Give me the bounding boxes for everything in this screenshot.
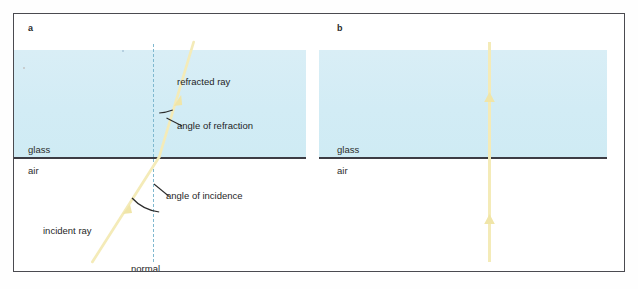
refraction-figure: a glass air xyxy=(0,0,638,289)
panel-b-glass-region xyxy=(319,50,607,158)
panel-a-normal-line xyxy=(153,44,154,262)
normal-incidence-ray-arrowhead-air xyxy=(484,214,495,224)
panel-a-glass-region xyxy=(14,50,306,158)
panel-a: a glass air xyxy=(14,14,319,271)
refracted-ray-label: refracted ray xyxy=(177,76,230,87)
normal-label: normal xyxy=(131,263,160,271)
incident-ray-arrowhead xyxy=(123,204,132,214)
panel-b-air-label: air xyxy=(337,165,348,176)
angle-of-incidence-arc xyxy=(132,198,159,212)
panel-b: b glass air xyxy=(319,14,624,271)
panel-a-letter: a xyxy=(28,23,33,33)
panel-a-air-label: air xyxy=(28,165,39,176)
panel-b-glass-label: glass xyxy=(337,144,359,155)
speck-mark xyxy=(23,67,25,69)
figure-frame: a glass air xyxy=(13,13,625,272)
panel-b-letter: b xyxy=(337,23,343,33)
incident-ray-line xyxy=(92,157,159,262)
incident-ray-label: incident ray xyxy=(43,225,92,236)
panel-a-interface-line xyxy=(14,157,306,159)
angle-of-incidence-label: angle of incidence xyxy=(166,190,243,201)
angle-of-refraction-label: angle of refraction xyxy=(177,120,253,131)
speck-mark xyxy=(122,50,124,52)
panel-a-glass-label: glass xyxy=(28,144,50,155)
panel-b-interface-line xyxy=(319,157,607,159)
